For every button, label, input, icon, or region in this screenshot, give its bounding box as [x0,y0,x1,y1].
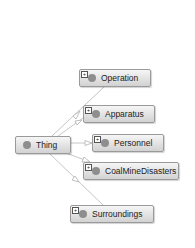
arrowhead-icon [85,141,92,146]
node-personnel[interactable]: + Personnel [92,134,164,152]
arrowhead-icon [75,120,82,125]
class-circle-icon [88,74,96,82]
arrowhead-icon [72,176,79,182]
node-label: CoalMineDisasters [105,166,176,176]
node-thing[interactable]: Thing [15,136,71,154]
class-circle-icon [101,139,109,147]
expand-icon[interactable]: + [94,136,101,143]
class-circle-icon [23,141,31,149]
class-circle-icon [79,210,87,218]
node-label: Apparatus [105,109,144,119]
expand-icon[interactable]: + [85,107,92,114]
class-circle-icon [92,110,100,118]
node-label: Surroundings [92,209,143,219]
node-coalminedisasters[interactable]: + CoalMineDisasters [83,162,179,180]
arrowhead-icon [73,111,80,119]
node-label: Thing [36,140,57,150]
node-operation[interactable]: + Operation [79,69,151,87]
node-label: Operation [101,73,138,83]
node-apparatus[interactable]: + Apparatus [83,105,155,123]
expand-icon[interactable]: + [81,71,88,78]
expand-icon[interactable]: + [72,207,79,214]
expand-icon[interactable]: + [85,164,92,171]
node-surroundings[interactable]: + Surroundings [70,205,154,223]
node-label: Personnel [114,138,152,148]
class-circle-icon [92,167,100,175]
